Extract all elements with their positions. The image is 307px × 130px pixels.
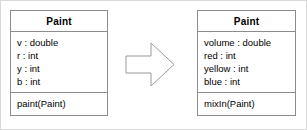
uml-class-name-after: Paint (198, 11, 295, 32)
uml-operations-after: mixIn(Paint) (198, 93, 295, 115)
uml-attribute: r : int (17, 49, 107, 62)
uml-operations-before: paint(Paint) (11, 93, 107, 115)
uml-attribute: b : int (17, 75, 107, 88)
uml-attribute: red : int (204, 49, 295, 62)
uml-attributes-before: v : double r : int y : int b : int (11, 32, 107, 93)
uml-operation: paint(Paint) (17, 97, 107, 110)
uml-attributes-after: volume : double red : int yellow : int b… (198, 32, 295, 93)
uml-class-after[interactable]: Paint volume : double red : int yellow :… (197, 10, 296, 116)
uml-class-name-before: Paint (11, 11, 107, 32)
uml-attribute: volume : double (204, 36, 295, 49)
uml-class-diagram: Paint v : double r : int y : int b : int… (0, 0, 307, 130)
uml-operation: mixIn(Paint) (204, 97, 295, 110)
block-arrow-right-icon (125, 42, 175, 87)
uml-class-before[interactable]: Paint v : double r : int y : int b : int… (10, 10, 108, 116)
uml-attribute: v : double (17, 36, 107, 49)
uml-attribute: yellow : int (204, 62, 295, 75)
uml-attribute: y : int (17, 62, 107, 75)
uml-attribute: blue : int (204, 75, 295, 88)
